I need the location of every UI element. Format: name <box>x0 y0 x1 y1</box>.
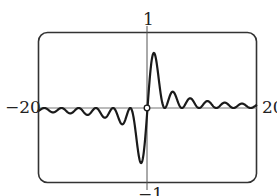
x-max-label: 20 <box>262 99 277 116</box>
function-plot: 1 −1 −20 20 <box>0 0 277 196</box>
y-min-label: −1 <box>138 186 163 196</box>
open-circle-hole <box>144 105 150 111</box>
plot-area <box>0 0 277 196</box>
y-max-label: 1 <box>143 11 154 28</box>
x-min-label: −20 <box>5 99 41 116</box>
